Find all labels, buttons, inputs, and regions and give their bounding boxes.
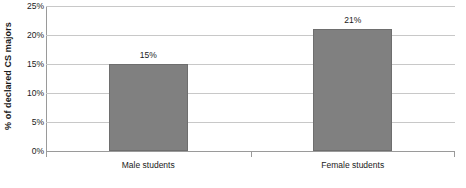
gridline xyxy=(46,122,455,123)
y-tick-label: 20% xyxy=(8,30,44,40)
y-tick-label: 25% xyxy=(8,1,44,11)
y-axis-ticks: 0%5%10%15%20%25% xyxy=(4,0,44,188)
gridline xyxy=(46,93,455,94)
y-tick-label: 10% xyxy=(8,88,44,98)
y-tick-label: 5% xyxy=(8,117,44,127)
x-tick-mark xyxy=(46,152,47,157)
gridline xyxy=(46,6,455,7)
gridline xyxy=(46,35,455,36)
x-tick-mark xyxy=(454,152,455,157)
bar-value-label: 21% xyxy=(313,15,392,25)
x-category-label: Female students xyxy=(283,160,423,170)
y-tick-label: 15% xyxy=(8,59,44,69)
bar[interactable] xyxy=(109,64,188,151)
bar-chart: % of declared CS majors 0%5%10%15%20%25%… xyxy=(0,0,466,188)
x-category-label: Male students xyxy=(78,160,218,170)
bar[interactable] xyxy=(313,29,392,151)
x-tick-mark xyxy=(251,152,252,157)
bar-value-label: 15% xyxy=(109,50,188,60)
plot-area: 15%21% xyxy=(46,6,455,151)
gridline xyxy=(46,64,455,65)
y-tick-label: 0% xyxy=(8,146,44,156)
